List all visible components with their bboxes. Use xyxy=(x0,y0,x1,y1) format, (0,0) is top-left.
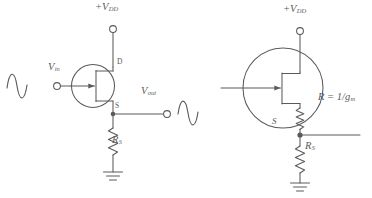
right-transistor-source-lead xyxy=(282,104,300,109)
right-supply-label: +VDD xyxy=(283,4,306,15)
output-voltage-label: Vout xyxy=(141,86,156,97)
right-ground-symbol xyxy=(291,183,310,191)
input-sine-wave xyxy=(7,74,27,98)
right-source-label: S xyxy=(272,117,277,126)
left-transistor-source-lead xyxy=(96,101,113,114)
right-source-resistor-label: RS xyxy=(305,141,315,152)
left-output-lead xyxy=(113,111,170,118)
left-supply-terminal xyxy=(110,26,117,67)
right-source-resistor xyxy=(295,135,304,183)
circuit-figure: +VDD Vin D S Vout RS +VDD R = 1/gm S RS xyxy=(0,0,372,198)
source-label: S xyxy=(115,102,119,110)
left-input-terminal xyxy=(54,83,71,90)
input-voltage-label: Vin xyxy=(48,62,60,73)
right-supply-terminal xyxy=(297,28,304,72)
transconductance-resistance-label: R = 1/gm xyxy=(318,92,355,103)
left-supply-label: +VDD xyxy=(95,2,118,13)
output-sine-wave xyxy=(178,101,198,125)
right-transistor-drain-lead xyxy=(282,72,300,74)
drain-label: D xyxy=(117,58,122,66)
internal-transconductance-resistor xyxy=(296,108,304,135)
left-source-resistor-label: RS xyxy=(112,135,122,146)
circuit-schematic-svg xyxy=(0,0,372,198)
left-ground-symbol xyxy=(104,172,123,180)
